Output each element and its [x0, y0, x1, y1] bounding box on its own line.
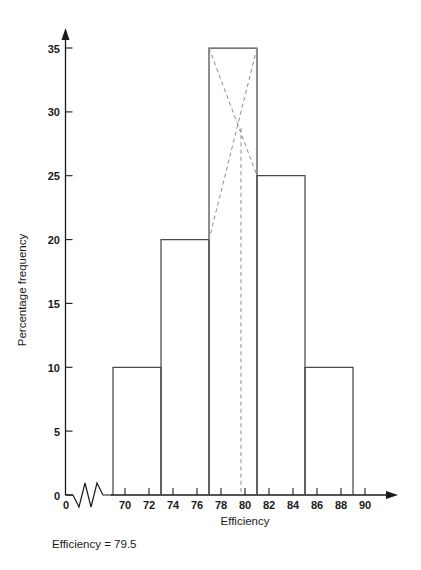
mode-construction-lines	[209, 48, 257, 495]
x-tick-label-86: 86	[311, 499, 323, 511]
x-tick-label-84: 84	[287, 499, 300, 511]
caption-efficiency-value: Efficiency = 79.5	[52, 538, 137, 550]
x-axis	[66, 483, 399, 507]
histogram-bar-77-81	[209, 48, 257, 495]
y-tick-label-35: 35	[48, 43, 60, 55]
construction-line-right-to-left	[209, 48, 257, 240]
construction-line-left-to-right	[209, 48, 257, 176]
x-axis-tick-labels: 0 70 72 74 76 78 80 82 84 86 88 90	[63, 499, 371, 511]
y-tick-label-0: 0	[54, 490, 60, 502]
page-footer-artifact	[0, 561, 421, 570]
x-tick-label-76: 76	[191, 499, 203, 511]
y-axis-tick-labels: 0 5 10 15 20 25 30 35	[48, 43, 60, 502]
histogram-bars	[113, 48, 353, 495]
x-tick-label-70: 70	[119, 499, 131, 511]
x-tick-label-0: 0	[63, 499, 69, 511]
y-tick-label-10: 10	[48, 362, 60, 374]
y-axis-title: Percentage frequency	[16, 233, 28, 346]
x-tick-label-80: 80	[239, 499, 251, 511]
chart-svg: 0 5 10 15 20 25 30 35 Percentage frequen…	[0, 0, 421, 570]
x-tick-label-72: 72	[143, 499, 155, 511]
x-tick-label-90: 90	[359, 499, 371, 511]
y-axis	[62, 28, 70, 495]
y-tick-label-30: 30	[48, 106, 60, 118]
y-tick-label-5: 5	[54, 426, 60, 438]
y-tick-label-15: 15	[48, 298, 60, 310]
y-axis-arrow-icon	[62, 28, 70, 40]
histogram-bar-81-85	[257, 176, 305, 495]
histogram-bar-73-77	[161, 240, 209, 495]
y-tick-label-25: 25	[48, 170, 60, 182]
x-axis-break-zigzag-icon	[73, 483, 113, 507]
x-tick-label-74: 74	[167, 499, 180, 511]
x-axis-title: Efficiency	[220, 515, 269, 527]
x-tick-label-78: 78	[215, 499, 227, 511]
y-tick-label-20: 20	[48, 234, 60, 246]
y-axis-ticks	[66, 48, 73, 495]
x-tick-label-88: 88	[335, 499, 347, 511]
x-tick-label-82: 82	[263, 499, 275, 511]
histogram-bar-85-89	[305, 367, 353, 495]
histogram-figure: 0 5 10 15 20 25 30 35 Percentage frequen…	[0, 0, 421, 570]
x-axis-arrow-icon	[386, 491, 398, 499]
histogram-bar-69-73	[113, 367, 161, 495]
